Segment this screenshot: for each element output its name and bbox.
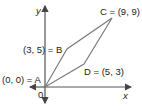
y-axis-label: y (35, 5, 42, 16)
point-d-label: D = (5, 3) (84, 66, 124, 77)
point-b-label: (3, 5) = B (23, 44, 62, 55)
point-c-label: C = (9, 9) (100, 6, 140, 17)
point-a-label: (0, 0) = A (2, 74, 41, 85)
coordinate-diagram: y x 0 C = (9, 9) (3, 5) = B D = (5, 3) (… (0, 0, 142, 111)
origin-label: 0 (38, 89, 43, 100)
x-axis-label: x (122, 90, 129, 101)
